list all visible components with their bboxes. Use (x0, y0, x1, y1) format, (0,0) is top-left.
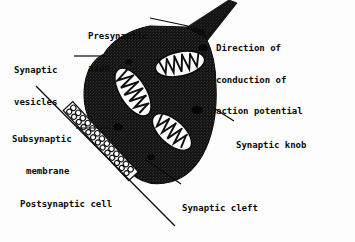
label-presynaptic-axon: Presynaptic axon (88, 10, 148, 94)
label-synaptic-knob-line1: Synaptic knob (236, 140, 306, 151)
label-presynaptic-axon-line2: axon (88, 63, 148, 74)
diagram-canvas: Presynaptic axon Synaptic vesicles Direc… (0, 0, 355, 242)
label-synaptic-vesicles-line1: Synaptic (14, 65, 57, 76)
label-subsynaptic-line2: membrane (12, 166, 72, 177)
label-presynaptic-axon-line1: Presynaptic (88, 31, 148, 42)
label-direction-line1: Direction of (216, 43, 303, 54)
label-synaptic-vesicles-line2: vesicles (14, 97, 57, 108)
label-synaptic-cleft-line1: Synaptic cleft (182, 203, 258, 214)
label-synaptic-cleft: Synaptic cleft (182, 182, 258, 235)
leader-presynaptic-axon (150, 18, 188, 26)
label-postsynaptic-line1: Postsynaptic cell (20, 199, 112, 210)
label-subsynaptic-line1: Subsynaptic (12, 134, 72, 145)
label-synaptic-knob: Synaptic knob (236, 119, 306, 172)
label-postsynaptic-cell: Postsynaptic cell (20, 178, 112, 231)
label-direction-line3: action potential (216, 106, 303, 117)
label-direction-line2: conduction of (216, 75, 303, 86)
